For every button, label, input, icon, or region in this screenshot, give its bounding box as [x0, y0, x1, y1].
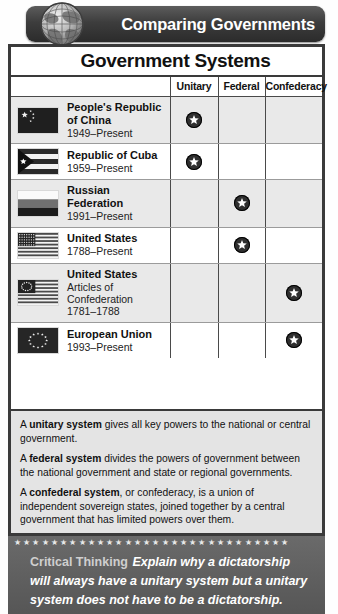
star-marker-icon — [234, 195, 250, 211]
country-period: 1993–Present — [67, 341, 152, 353]
unitary-cell — [170, 180, 218, 227]
column-header-federal: Federal — [218, 77, 265, 97]
star-marker-icon — [186, 154, 202, 170]
government-systems-table: Unitary Federal Confederacy People's Rep… — [11, 77, 322, 358]
column-header-unitary: Unitary — [170, 77, 218, 97]
confederacy-cell — [265, 227, 322, 263]
confederacy-cell — [265, 263, 322, 322]
unitary-cell — [170, 227, 218, 263]
star-marker-icon — [234, 237, 250, 253]
definition-paragraph: A confederal system, or confederacy, is … — [20, 486, 313, 527]
country-note: Articles of — [67, 281, 137, 293]
federal-cell — [218, 144, 265, 180]
confederacy-cell — [265, 144, 322, 180]
country-cell: European Union1993–Present — [11, 322, 170, 358]
federal-cell — [218, 263, 265, 322]
confederacy-cell — [265, 97, 322, 144]
unitary-cell — [170, 322, 218, 358]
star-marker-icon — [286, 332, 302, 348]
country-cell: People's Republic of China1949–Present — [11, 97, 170, 144]
star-divider: ★ ★ ★ ★ ★ ★ ★ ★ ★ ★ ★ ★ ★ ★ ★ ★ ★ ★ ★ ★ … — [8, 536, 325, 547]
country-period: 1781–1788 — [67, 305, 137, 317]
table-row: United States1788–Present — [11, 227, 322, 263]
banner-title: Comparing Governments — [121, 15, 315, 34]
usa-flag — [17, 232, 59, 259]
table-title: Government Systems — [11, 47, 322, 77]
definition-term: confederal system — [29, 487, 119, 498]
critical-thinking-body: Critical Thinking Explain why a dictator… — [8, 547, 325, 609]
column-header-confederacy: Confederacy — [265, 77, 322, 97]
unitary-cell — [170, 97, 218, 144]
country-cell: United StatesArticles ofConfederation178… — [11, 263, 170, 322]
column-header-country — [11, 77, 170, 97]
country-name: Republic of Cuba — [67, 149, 157, 162]
country-name: United States — [67, 268, 137, 281]
definition-term: federal system — [29, 453, 101, 464]
country-note: Confederation — [67, 293, 137, 305]
country-period: 1949–Present — [67, 127, 168, 139]
table-row: United StatesArticles ofConfederation178… — [11, 263, 322, 322]
federal-cell — [218, 227, 265, 263]
critical-thinking-panel: ★ ★ ★ ★ ★ ★ ★ ★ ★ ★ ★ ★ ★ ★ ★ ★ ★ ★ ★ ★ … — [8, 536, 325, 614]
federal-cell — [218, 97, 265, 144]
table-header-row: Unitary Federal Confederacy — [11, 77, 322, 97]
china-flag — [17, 107, 59, 134]
country-name: European Union — [67, 328, 152, 341]
country-period: 1788–Present — [67, 245, 137, 257]
definition-term: unitary system — [29, 419, 102, 430]
table-row: People's Republic of China1949–Present — [11, 97, 322, 144]
country-cell: Republic of Cuba1959–Present — [11, 144, 170, 180]
star-marker-icon — [286, 285, 302, 301]
country-period: 1959–Present — [67, 162, 157, 174]
table-body: People's Republic of China1949–PresentRe… — [11, 97, 322, 358]
confederacy-cell — [265, 180, 322, 227]
federal-cell — [218, 322, 265, 358]
confederacy-cell — [265, 322, 322, 358]
country-name: Russian Federation — [67, 184, 168, 210]
country-name: People's Republic of China — [67, 101, 168, 127]
federal-cell — [218, 180, 265, 227]
definitions-block: A unitary system gives all key powers to… — [11, 409, 322, 533]
country-period: 1991–Present — [67, 210, 168, 222]
table-row: Russian Federation1991–Present — [11, 180, 322, 227]
russia-flag — [17, 190, 59, 217]
country-cell: United States1788–Present — [11, 227, 170, 263]
unitary-cell — [170, 144, 218, 180]
usa-articles-flag — [17, 279, 59, 306]
country-name: United States — [67, 232, 137, 245]
comparing-governments-infographic: Comparing Governments — [0, 0, 338, 614]
table-title-text: Government Systems — [63, 50, 271, 72]
globe-icon — [14, 2, 110, 46]
star-marker-icon — [186, 112, 202, 128]
critical-thinking-label: Critical Thinking — [30, 555, 128, 569]
country-cell: Russian Federation1991–Present — [11, 180, 170, 227]
eu-flag — [17, 327, 59, 354]
table-row: European Union1993–Present — [11, 322, 322, 358]
unitary-cell — [170, 263, 218, 322]
definition-paragraph: A unitary system gives all key powers to… — [20, 418, 313, 445]
table-panel: Government Systems Unitary Federal Confe… — [8, 44, 325, 536]
definition-paragraph: A federal system divides the powers of g… — [20, 452, 313, 479]
cuba-flag — [17, 148, 59, 175]
table-row: Republic of Cuba1959–Present — [11, 144, 322, 180]
